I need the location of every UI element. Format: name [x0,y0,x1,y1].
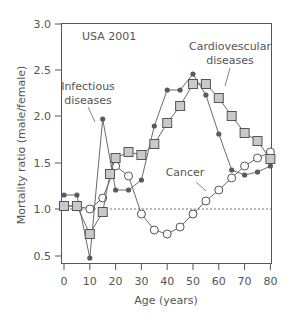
x-axis [64,264,270,271]
annotation-infectious: Infectious [61,80,115,93]
y-tick-label: 0.5 [34,250,52,263]
y-tick-label: 2.0 [34,110,52,123]
x-tick-label: 40 [160,275,174,288]
y-tick-label: 1.0 [34,203,52,216]
y-tick-label: 3.0 [34,18,52,31]
y-tick-label: 2.5 [34,64,52,77]
chart-title: USA 2001 [82,30,136,43]
leader-line-infectious [88,107,95,122]
x-tick-label: 30 [134,275,148,288]
leader-line-cancer [196,182,206,191]
annotation-infectious: diseases [64,94,112,107]
annotation-cancer: Cancer [166,166,205,179]
annotation-cardiovascular: diseases [206,54,254,67]
x-tick-label: 0 [61,275,68,288]
x-tick-label: 80 [263,275,277,288]
y-tick-label: 1.5 [34,157,52,170]
x-axis-title: Age (years) [134,294,198,307]
mortality-ratio-chart: 0.5 1.0 1.5 2.0 2.5 3.0 0 10 20 30 40 50… [0,0,295,320]
y-axis-title: Mortality ratio (male/female) [15,66,28,225]
chart-svg: 0.5 1.0 1.5 2.0 2.5 3.0 0 10 20 30 40 50… [0,0,295,320]
y-axis [55,24,62,256]
x-tick-label: 70 [238,275,252,288]
x-tick-label: 20 [109,275,123,288]
x-tick-label: 60 [212,275,226,288]
leader-line-cardiovascular [225,68,230,86]
x-tick-label: 50 [186,275,200,288]
annotation-cardiovascular: Cardiovescular [189,40,271,53]
x-tick-label: 10 [83,275,97,288]
